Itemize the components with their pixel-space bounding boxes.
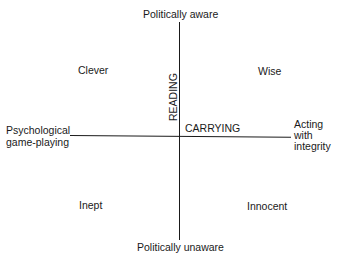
- left-axis-label-line1: Psychological: [6, 124, 70, 136]
- carrying-axis-name: CARRYING: [185, 122, 240, 134]
- quadrant-top-right: Wise: [258, 65, 281, 77]
- bottom-axis-label: Politically unaware: [137, 241, 224, 253]
- quadrant-bottom-right: Innocent: [247, 200, 287, 212]
- quadrant-top-left: Clever: [78, 64, 108, 76]
- horizontal-axis-line: [70, 135, 291, 138]
- top-axis-label: Politically aware: [143, 8, 218, 20]
- reading-axis-name: READING: [167, 73, 179, 121]
- quadrant-bottom-left: Inept: [79, 199, 102, 211]
- vertical-axis-line: [179, 22, 180, 240]
- right-axis-label-line3: integrity: [294, 140, 331, 152]
- left-axis-label-line2: game-playing: [6, 136, 69, 148]
